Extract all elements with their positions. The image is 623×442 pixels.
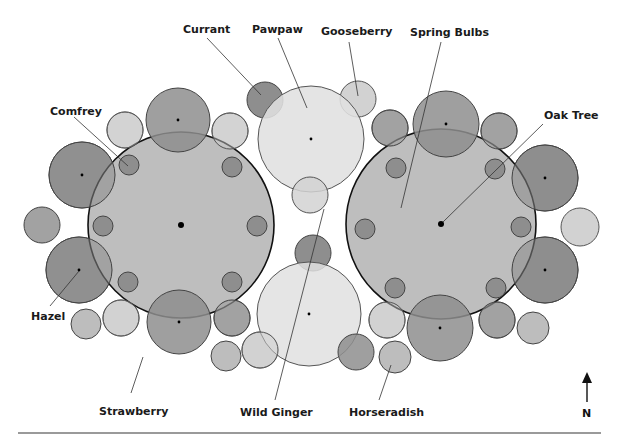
comfrey-circle [247, 216, 267, 236]
medium-shrub-overlay [214, 300, 250, 336]
center-dot [308, 313, 311, 316]
light-shrub-overlay [242, 332, 278, 368]
horseradish-circle [379, 341, 411, 373]
light-shrub-overlay [103, 300, 139, 336]
strawberry-leader [131, 357, 143, 393]
currant-leader [207, 38, 261, 95]
label-pawpaw: Pawpaw [252, 23, 303, 36]
comfrey-circle [222, 157, 242, 177]
horseradish-leader [379, 365, 391, 400]
light-shrub-overlay [212, 113, 248, 149]
comfrey-circle [222, 272, 242, 292]
center-dot [81, 174, 84, 177]
guild-planting-diagram: Currant Pawpaw Gooseberry Spring Bulbs O… [0, 0, 623, 442]
label-horseradish: Horseradish [349, 406, 424, 419]
comfrey-circle [385, 278, 405, 298]
right-guild [346, 91, 599, 373]
comfrey-circle [118, 272, 138, 292]
north-label: N [582, 407, 591, 420]
center-dot [310, 138, 313, 141]
center-dot [439, 327, 442, 330]
label-spring-bulbs: Spring Bulbs [410, 26, 489, 39]
center-dot [177, 119, 180, 122]
bottom-rule [18, 432, 601, 434]
horseradish-circle [211, 341, 241, 371]
horseradish-circle [71, 309, 101, 339]
medium-shrub-overlay [481, 113, 517, 149]
label-comfrey: Comfrey [50, 105, 102, 118]
medium-shrub-overlay [479, 302, 515, 338]
center-dot [445, 123, 448, 126]
label-currant: Currant [183, 23, 230, 36]
light-shrub-overlay [107, 112, 143, 148]
light-shrub-circle [561, 208, 599, 246]
horseradish-circle [517, 312, 549, 344]
comfrey-circle [119, 155, 139, 175]
label-oak-tree: Oak Tree [544, 109, 599, 122]
center-dot [544, 269, 547, 272]
comfrey-circle [511, 217, 531, 237]
medium-shrub-overlay [372, 110, 408, 146]
small-shrub-circle [24, 207, 60, 243]
label-hazel: Hazel [31, 310, 65, 323]
light-shrub-circle [292, 177, 328, 213]
label-wild-ginger: Wild Ginger [240, 406, 313, 419]
north-compass: N [582, 372, 592, 420]
dark-shrub-circle [338, 334, 374, 370]
north-arrow-icon [582, 372, 592, 383]
comfrey-circle [486, 278, 506, 298]
comfrey-circle [355, 219, 375, 239]
trunk-dot [178, 222, 184, 228]
left-guild [24, 88, 278, 371]
center-dot [178, 321, 181, 324]
comfrey-circle [93, 216, 113, 236]
center-dot [78, 269, 81, 272]
comfrey-circle [386, 158, 406, 178]
light-shrub-overlay [369, 302, 405, 338]
comfrey-circle [485, 159, 505, 179]
center-dot [544, 177, 547, 180]
label-strawberry: Strawberry [99, 405, 169, 418]
label-gooseberry: Gooseberry [321, 25, 393, 38]
